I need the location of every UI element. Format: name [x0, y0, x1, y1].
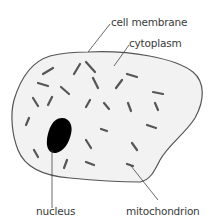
- cell-diagram: cell membrane cytoplasm nucleus mitochon…: [0, 0, 212, 224]
- label-cell-membrane: cell membrane: [111, 16, 187, 28]
- label-mitochondrion: mitochondrion: [126, 205, 200, 217]
- cell-membrane-outline: [12, 52, 202, 182]
- cell-membrane-leader: [88, 24, 110, 52]
- label-cytoplasm: cytoplasm: [129, 37, 181, 49]
- cell-drawing: [0, 0, 212, 224]
- label-nucleus: nucleus: [36, 205, 75, 217]
